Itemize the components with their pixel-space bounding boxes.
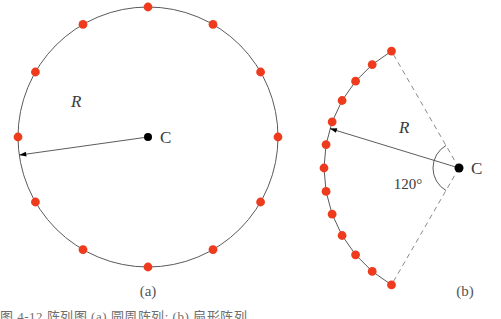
cropped-caption-line: 图 4-12 阵列图 (a) 圆周阵列; (b) 扇形阵列 [0,306,501,319]
array-dot [322,187,331,196]
center-point [455,164,464,173]
array-dot [31,68,40,77]
radius-line [19,137,148,155]
array-dot [144,263,153,272]
array-dot [209,20,218,29]
array-dot [322,140,331,149]
arc-polyline [324,51,392,285]
angle-marker-arc [433,145,446,190]
array-dot [351,250,360,259]
center-label: C [471,159,482,178]
panel-b: R C 120° (b) [320,47,483,300]
array-dot [256,68,265,77]
array-dots-group [320,47,396,290]
panel-a: R C (a) [14,3,283,300]
radius-arrowhead [19,152,26,157]
array-dot [79,245,88,254]
array-dot [14,133,23,142]
array-dot [328,210,337,219]
array-dot [338,96,347,105]
array-dot [31,198,40,207]
array-dot [144,3,153,12]
center-point [144,133,152,141]
array-dot [387,47,396,56]
array-dot [274,133,283,142]
array-dot [79,20,88,29]
array-dot [209,245,218,254]
radius-arrowhead [330,128,337,133]
array-dot [351,77,360,86]
array-dot [387,281,396,290]
radius-label: R [398,118,410,137]
array-dot [320,164,329,173]
array-dot [368,60,377,69]
angle-label: 120° [394,176,423,192]
array-dot [256,198,265,207]
panel-caption-a: (a) [140,283,157,300]
array-dot [338,231,347,240]
center-label: C [160,128,171,147]
radius-label: R [70,92,82,111]
panel-caption-b: (b) [456,283,474,300]
array-dot [328,117,337,126]
array-dot [368,267,377,276]
